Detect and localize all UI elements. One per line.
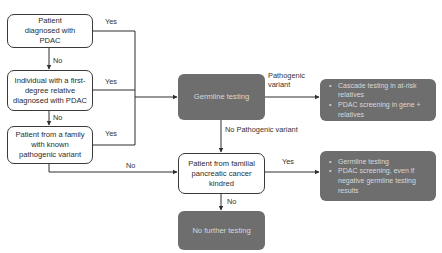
node-label: Patient from a family with known pathoge… [8, 130, 92, 160]
node-patient-diagnosed-pdac: Patient diagnosed with PDAC [7, 14, 93, 48]
outcome-bullet: PDAC screening in gene + relatives [338, 100, 430, 119]
edge-label-familial-no: No [227, 197, 236, 206]
edge-label-pathogenic-variant: Pathogenic variant [268, 71, 305, 89]
node-label: No further testing [192, 226, 250, 236]
node-familial-kindred: Patient from familial pancreatic cancer … [178, 153, 265, 194]
node-label: Germline testing [194, 92, 249, 102]
node-no-further-testing: No further testing [178, 211, 265, 250]
edge-label-diagnosed-yes: Yes [105, 17, 117, 26]
edge-label-line: variant [268, 80, 290, 89]
edge-label-line: Pathogenic [268, 71, 305, 80]
outcome-bullet: Germline testing [338, 157, 430, 167]
node-first-degree-relative: Individual with a first-degree relative … [7, 70, 93, 111]
edge-label-known-variant-yes: Yes [105, 129, 117, 138]
outcome-bullet: Cascade testing in at-risk relatives [338, 81, 430, 100]
node-family-known-variant: Patient from a family with known pathoge… [7, 126, 93, 164]
edge-label-known-variant-no: No [126, 161, 135, 170]
node-label: Patient from familial pancreatic cancer … [179, 159, 264, 189]
outcome-pathogenic-variant: Cascade testing in at-risk relatives PDA… [320, 79, 436, 121]
edge-label-no-pathogenic-variant: No Pathogenic variant [225, 125, 298, 134]
node-label: Individual with a first-degree relative … [8, 76, 92, 106]
outcome-bullet-list: Cascade testing in at-risk relatives PDA… [328, 81, 430, 119]
edge-label-first-degree-no: No [53, 113, 62, 122]
edge-label-diagnosed-no: No [53, 56, 62, 65]
edge-label-familial-yes: Yes [282, 157, 294, 166]
outcome-bullet: PDAC screening, even if negative germlin… [338, 166, 430, 195]
node-germline-testing: Germline testing [178, 74, 265, 120]
node-label: Patient diagnosed with PDAC [8, 16, 92, 46]
outcome-bullet-list: Germline testing PDAC screening, even if… [328, 157, 430, 195]
edge-label-first-degree-yes: Yes [105, 77, 117, 86]
outcome-familial-kindred: Germline testing PDAC screening, even if… [320, 151, 436, 201]
